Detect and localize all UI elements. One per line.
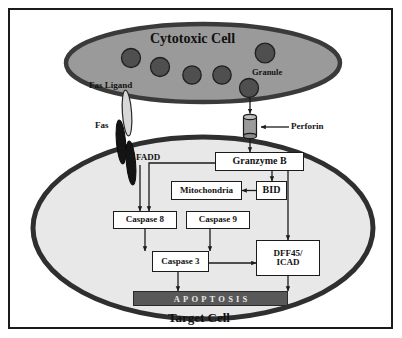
- node-granzyme-b[interactable]: Granzyme B: [215, 152, 304, 171]
- granule-label: Granule: [252, 68, 282, 77]
- node-dff45-icad-line2: ICAD: [276, 258, 299, 267]
- granule-releasing: [240, 79, 259, 98]
- granule: [255, 43, 275, 63]
- fas-label: Fas: [95, 121, 109, 130]
- granule: [213, 66, 231, 84]
- node-mitochondria[interactable]: Mitochondria: [171, 181, 242, 200]
- node-bid[interactable]: BID: [256, 181, 287, 200]
- node-caspase-9[interactable]: Caspase 9: [186, 211, 250, 229]
- diagram-figure: Cytotoxic Cell Granule Fas Ligand Fas Pe…: [0, 0, 402, 338]
- fadd-label: FADD: [136, 153, 160, 162]
- apoptosis-bar: APOPTOSIS: [133, 291, 288, 306]
- target-cell-label: Target Cell: [168, 310, 230, 326]
- node-caspase-3[interactable]: Caspase 3: [152, 251, 209, 272]
- diagram-canvas: [0, 0, 402, 338]
- fas-ligand-label: Fas Ligand: [89, 81, 132, 90]
- granule: [151, 58, 170, 77]
- node-dff45-icad[interactable]: DFF45/ ICAD: [256, 240, 320, 276]
- granule: [183, 66, 201, 84]
- node-caspase-8[interactable]: Caspase 8: [113, 211, 177, 229]
- granule: [122, 49, 141, 68]
- perforin-label: Perforin: [291, 122, 323, 131]
- perforin-channel: [244, 114, 257, 138]
- cytotoxic-cell-label: Cytotoxic Cell: [150, 31, 235, 47]
